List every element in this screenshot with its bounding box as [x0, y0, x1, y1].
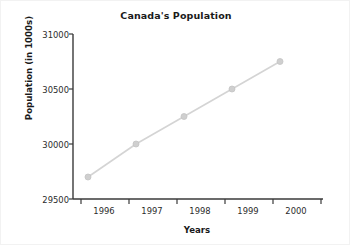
- x-axis-ticks: [81, 199, 321, 204]
- chart-container: Canada's Population Population (in 1000s…: [0, 0, 350, 245]
- data-point-marker: [229, 86, 235, 92]
- plot-area: [1, 1, 350, 245]
- data-point-marker: [133, 141, 139, 147]
- axis-lines: [73, 34, 323, 199]
- data-point-marker: [181, 114, 187, 120]
- data-point-marker: [85, 174, 91, 180]
- data-point-marker: [277, 59, 283, 65]
